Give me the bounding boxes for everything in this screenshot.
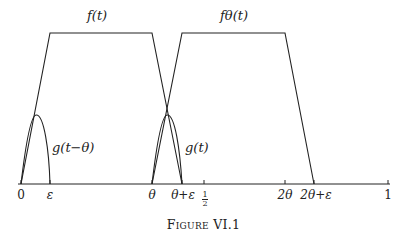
label-f: f(t) [87, 8, 107, 23]
curve-g [152, 115, 182, 184]
label-f-theta: fθ(t) [220, 8, 248, 23]
tick-2theta: 2θ [278, 188, 293, 202]
tick-1: 1 [384, 188, 392, 202]
tick-one-half: 12 [202, 186, 208, 208]
curve-g-shift [21, 115, 50, 184]
tick-theta-plus-epsilon: θ+ε [171, 188, 195, 202]
curve-f-theta [152, 33, 314, 184]
label-g-shift: g(t−θ) [52, 140, 94, 155]
axis-ticks [21, 180, 388, 184]
tick-theta: θ [148, 188, 155, 202]
tick-0: 0 [17, 188, 25, 202]
label-g: g(t) [185, 140, 209, 155]
tick-epsilon: ε [47, 188, 53, 202]
curve-f [21, 33, 182, 184]
figure-caption: Figure VI.1 [0, 217, 407, 232]
tick-2theta-plus-epsilon: 2θ+ε [300, 188, 331, 202]
